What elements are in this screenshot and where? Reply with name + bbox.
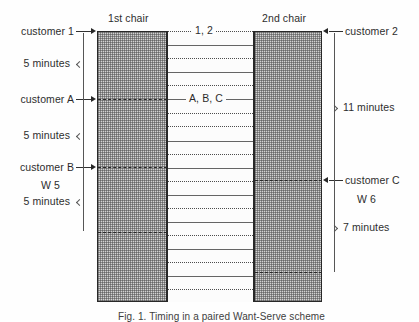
queue-line — [168, 249, 253, 250]
customer-b-leader — [76, 167, 92, 168]
label-customer-c: customer C — [345, 175, 400, 186]
label-left-interval-3: 5 minutes — [4, 196, 70, 207]
queue-line — [168, 113, 253, 114]
customer-1-arrow-icon — [91, 28, 96, 34]
customer-c-leader — [329, 180, 343, 181]
right-brace-tip-2 — [331, 225, 338, 232]
customer-b-arrow-icon — [91, 164, 96, 170]
customer-c-dashed-row — [255, 180, 322, 181]
left-brace-spine — [83, 33, 84, 231]
second-chair-column — [254, 31, 322, 302]
customer-2-leader — [329, 31, 343, 32]
customer-a-leader — [76, 99, 92, 100]
queue-line — [168, 289, 253, 290]
queue-line — [168, 208, 253, 209]
label-left-interval-2: 5 minutes — [4, 130, 70, 141]
queue-line — [168, 195, 253, 196]
customer-1-leader — [76, 31, 92, 32]
queue-line — [168, 235, 253, 236]
queue-line — [168, 45, 253, 46]
label-w6: W 6 — [357, 194, 376, 205]
label-customer-b: customer B — [6, 162, 74, 173]
left-brace-tip-1 — [76, 61, 83, 68]
label-left-interval-1: 5 minutes — [4, 58, 70, 69]
first-chair-block-end-row — [98, 232, 167, 233]
queue-line — [168, 126, 253, 127]
queue-column — [167, 31, 254, 302]
queue-line — [168, 154, 253, 155]
customer-2-arrow-icon — [323, 28, 328, 34]
queue-line — [168, 276, 253, 277]
label-right-interval-1: 11 minutes — [343, 102, 395, 113]
queue-line — [168, 141, 253, 142]
customer-b-dashed-row — [98, 167, 167, 168]
right-brace-tip-1 — [331, 105, 338, 112]
label-customer-a: customer A — [6, 94, 74, 105]
label-w5: W 5 — [41, 180, 60, 191]
queue-middle-label: A, B, C — [186, 93, 226, 104]
customer-c-arrow-icon — [323, 177, 328, 183]
label-customer-1: customer 1 — [6, 26, 74, 37]
queue-line — [168, 85, 253, 86]
queue-line — [168, 222, 253, 223]
customer-a-dashed-row — [98, 99, 167, 100]
customer-a-arrow-icon — [91, 96, 96, 102]
queue-line — [168, 58, 253, 59]
left-brace-tip-3 — [76, 199, 83, 206]
queue-line — [168, 72, 253, 73]
right-brace-spine — [334, 33, 335, 272]
second-chair-header: 2nd chair — [262, 12, 306, 24]
second-chair-block-end-row — [255, 272, 322, 273]
left-brace-tip-2 — [76, 133, 83, 140]
label-customer-2: customer 2 — [345, 26, 398, 37]
queue-line — [168, 181, 253, 182]
figure-caption: Fig. 1. Timing in a paired Want-Serve sc… — [118, 311, 325, 322]
label-right-interval-2: 7 minutes — [343, 222, 389, 233]
queue-top-label: 1, 2 — [192, 25, 216, 36]
first-chair-header: 1st chair — [108, 12, 149, 24]
queue-line — [168, 168, 253, 169]
queue-line — [168, 262, 253, 263]
